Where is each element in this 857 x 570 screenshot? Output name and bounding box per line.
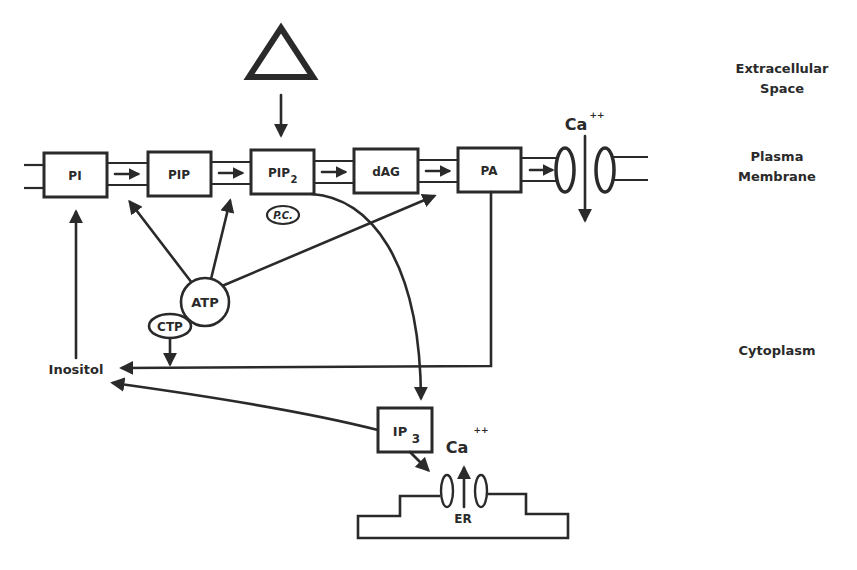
region-extracellular: Extracellular	[736, 61, 830, 76]
svg-text:3: 3	[412, 432, 420, 446]
svg-text:P.C.: P.C.	[273, 210, 293, 221]
svg-text:PI: PI	[68, 169, 81, 183]
ip3-to-er-arrow	[410, 452, 428, 470]
plasma-ca-label: Ca	[565, 115, 588, 134]
node-ip3: IP 3	[378, 408, 432, 452]
plasma-ca-charge: ++	[589, 110, 604, 120]
phosphoinositide-diagram: PI PIP PIP 2 dAG PA Ca ++ P.C. AT	[0, 0, 857, 570]
svg-text:2: 2	[291, 174, 298, 185]
node-inositol: Inositol	[49, 362, 104, 377]
stimulus-triangle-icon	[249, 28, 313, 77]
region-cytoplasm: Cytoplasm	[739, 343, 816, 358]
svg-text:IP: IP	[393, 424, 407, 439]
enzyme-ctp: CTP	[149, 314, 191, 338]
node-pi: PI	[44, 153, 107, 197]
region-plasma-membrane-2: Membrane	[738, 169, 816, 184]
node-pip2: PIP 2	[251, 150, 314, 194]
plasma-calcium-channel: Ca ++	[556, 110, 614, 220]
node-dag: dAG	[354, 149, 418, 193]
region-extracellular-2: Space	[760, 81, 804, 96]
svg-text:PIP: PIP	[168, 168, 190, 182]
svg-text:dAG: dAG	[372, 165, 400, 179]
svg-text:PIP: PIP	[268, 166, 290, 180]
svg-text:CTP: CTP	[157, 320, 183, 334]
er-ca-charge: ++	[473, 425, 488, 435]
enzyme-pc: P.C.	[267, 206, 299, 224]
region-plasma-membrane: Plasma	[751, 149, 804, 164]
ip3-to-inositol-arrow	[113, 383, 378, 430]
pa-to-inositol-arrow	[122, 192, 491, 368]
er-calcium-channel: Ca ++ ER	[441, 425, 489, 526]
svg-text:ATP: ATP	[191, 295, 218, 310]
svg-text:PA: PA	[481, 164, 499, 178]
node-pa: PA	[458, 148, 521, 192]
er-ca-label: Ca	[446, 438, 469, 457]
er-label: ER	[454, 512, 471, 526]
node-pip: PIP	[148, 152, 211, 196]
